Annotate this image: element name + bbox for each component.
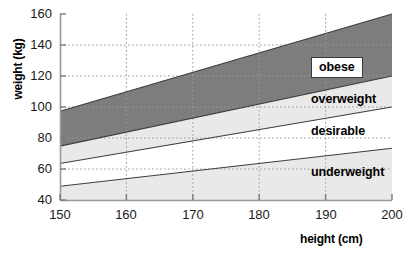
y-axis-title: weight (kg) bbox=[11, 27, 25, 111]
x-tick-200: 200 bbox=[372, 207, 412, 222]
x-tick-180: 180 bbox=[239, 207, 279, 222]
x-tick-190: 190 bbox=[306, 207, 346, 222]
x-tick-150: 150 bbox=[40, 207, 80, 222]
y-tick-80: 80 bbox=[18, 130, 52, 145]
band-label-overweight: overweight bbox=[311, 92, 376, 106]
y-tick-40: 40 bbox=[18, 192, 52, 207]
band-label-obese: obese bbox=[311, 57, 363, 78]
band-label-desirable: desirable bbox=[311, 124, 365, 138]
x-axis-title: height (cm) bbox=[300, 232, 362, 246]
x-tick-170: 170 bbox=[173, 207, 213, 222]
y-tick-160: 160 bbox=[18, 6, 52, 21]
band-label-underweight: underweight bbox=[311, 165, 384, 179]
x-tick-160: 160 bbox=[106, 207, 146, 222]
y-tick-60: 60 bbox=[18, 161, 52, 176]
